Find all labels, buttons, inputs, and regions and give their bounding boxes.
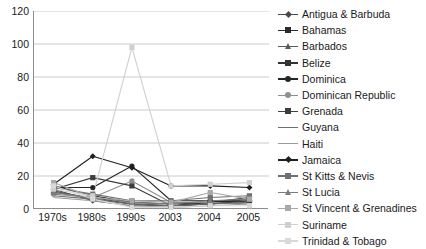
data-point-marker xyxy=(208,190,213,195)
legend-label: Antigua & Barbuda xyxy=(302,8,390,20)
legend-item-suriname[interactable]: Suriname xyxy=(278,216,426,232)
legend-item-st-vincent-grenadines[interactable]: St Vincent & Grenadines xyxy=(278,200,426,216)
legend-label: Dominica xyxy=(302,73,346,85)
legend-marker-icon xyxy=(285,222,291,228)
data-point-marker xyxy=(208,203,213,208)
legend-label: St Lucia xyxy=(302,186,340,198)
legend-marker-icon xyxy=(285,108,291,114)
legend-swatch-icon xyxy=(278,8,298,20)
plot-area: 020406080100120 1970s1980s1990s200320042… xyxy=(0,0,272,241)
legend-item-haiti[interactable]: Haiti xyxy=(278,136,426,152)
legend-marker-icon xyxy=(285,92,291,98)
data-point-marker xyxy=(168,183,173,188)
legend-item-guyana[interactable]: Guyana xyxy=(278,119,426,135)
legend-item-jamaica[interactable]: Jamaica xyxy=(278,152,426,168)
x-axis-tick-label: 2003 xyxy=(151,212,190,223)
legend-swatch-icon xyxy=(278,154,298,166)
x-axis-tick-label: 2004 xyxy=(190,212,229,223)
legend-swatch-icon xyxy=(278,186,298,198)
legend-line-icon xyxy=(278,127,298,128)
legend-swatch-icon xyxy=(278,73,298,85)
data-point-marker xyxy=(247,180,252,185)
data-series-layer xyxy=(34,11,269,209)
data-point-marker xyxy=(90,197,95,202)
legend-marker-icon xyxy=(285,238,291,244)
data-point-marker xyxy=(168,205,173,210)
legend-marker-icon xyxy=(285,205,291,211)
legend-item-dominica[interactable]: Dominica xyxy=(278,71,426,87)
legend-marker-icon xyxy=(285,189,291,195)
legend-item-grenada[interactable]: Grenada xyxy=(278,103,426,119)
plot-frame xyxy=(33,11,268,209)
legend-marker-icon xyxy=(285,43,291,49)
legend-label: Guyana xyxy=(302,121,339,133)
legend-marker-icon xyxy=(285,60,291,66)
legend-swatch-icon xyxy=(278,219,298,231)
data-point-marker xyxy=(247,203,252,208)
y-axis-tick-label: 80 xyxy=(0,72,29,82)
legend-swatch-icon xyxy=(278,121,298,133)
legend-item-barbados[interactable]: Barbados xyxy=(278,38,426,54)
legend-swatch-icon xyxy=(278,24,298,36)
legend-swatch-icon xyxy=(278,170,298,182)
data-point-marker xyxy=(168,200,173,205)
y-axis-tick-label: 0 xyxy=(0,204,29,214)
data-point-marker xyxy=(90,185,95,190)
data-point-marker xyxy=(129,198,134,203)
legend-label: Barbados xyxy=(302,40,347,52)
y-axis-tick-label: 100 xyxy=(0,39,29,49)
legend-item-bahamas[interactable]: Bahamas xyxy=(278,22,426,38)
data-point-marker xyxy=(246,185,252,191)
legend-item-st-lucia[interactable]: St Lucia xyxy=(278,184,426,200)
legend-swatch-icon xyxy=(278,105,298,117)
legend-label: Haiti xyxy=(302,138,323,150)
legend-label: St Kitts & Nevis xyxy=(302,170,374,182)
x-axis-tick-label: 1980s xyxy=(72,212,111,223)
x-axis-tick-label: 1970s xyxy=(33,212,72,223)
y-axis-tick-label: 20 xyxy=(0,171,29,181)
legend-swatch-icon xyxy=(278,40,298,52)
legend-label: Jamaica xyxy=(302,154,341,166)
series-line xyxy=(54,47,250,196)
legend-label: St Vincent & Grenadines xyxy=(302,202,417,214)
x-axis-tick-label: 2005 xyxy=(229,212,268,223)
legend-item-trinidad-tobago[interactable]: Trinidad & Tobago xyxy=(278,233,426,249)
legend-label: Bahamas xyxy=(302,24,346,36)
legend-item-antigua-barbuda[interactable]: Antigua & Barbuda xyxy=(278,6,426,22)
legend-swatch-icon xyxy=(278,235,298,247)
x-axis-tick-label: 1990s xyxy=(111,212,150,223)
legend-swatch-icon xyxy=(278,138,298,150)
legend-label: Belize xyxy=(302,57,331,69)
legend-item-dominican-republic[interactable]: Dominican Republic xyxy=(278,87,426,103)
legend-label: Suriname xyxy=(302,219,347,231)
data-point-marker xyxy=(247,197,252,202)
legend-swatch-icon xyxy=(278,89,298,101)
legend-marker-icon xyxy=(284,11,291,18)
legend-marker-icon xyxy=(285,76,291,82)
data-point-marker xyxy=(129,183,134,188)
data-point-marker xyxy=(51,183,56,188)
legend-label: Trinidad & Tobago xyxy=(302,235,387,247)
y-axis-tick-label: 40 xyxy=(0,138,29,148)
legend-item-belize[interactable]: Belize xyxy=(278,55,426,71)
legend-marker-icon xyxy=(285,173,291,179)
data-point-marker xyxy=(208,182,213,187)
data-point-marker xyxy=(129,205,134,210)
data-point-marker xyxy=(129,45,134,50)
data-point-marker xyxy=(129,178,134,183)
legend: Antigua & BarbudaBahamasBarbadosBelizeDo… xyxy=(278,6,426,249)
data-point-marker xyxy=(90,175,95,180)
legend-swatch-icon xyxy=(278,202,298,214)
legend-label: Grenada xyxy=(302,105,343,117)
legend-line-icon xyxy=(278,143,298,144)
legend-marker-icon xyxy=(284,156,291,163)
legend-item-st-kitts-nevis[interactable]: St Kitts & Nevis xyxy=(278,168,426,184)
legend-swatch-icon xyxy=(278,57,298,69)
y-axis-tick-label: 120 xyxy=(0,6,29,16)
y-axis-tick-label: 60 xyxy=(0,105,29,115)
legend-label: Dominican Republic xyxy=(302,89,395,101)
legend-marker-icon xyxy=(285,27,291,33)
